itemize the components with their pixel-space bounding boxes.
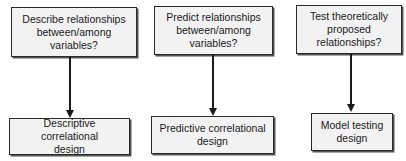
question-box-predict: Predict relationships between/among vari… (154, 6, 273, 55)
design-text: Descriptive correlational design (14, 117, 125, 156)
arrow-down-icon (347, 104, 355, 112)
question-text: Test theoretically proposed relationship… (310, 10, 388, 49)
question-text: Describe relationships between/among var… (22, 13, 125, 52)
connector-line (212, 55, 214, 110)
connector-line (69, 57, 71, 112)
design-box-model-testing: Model testing design (311, 113, 393, 151)
question-box-test: Test theoretically proposed relationship… (296, 5, 402, 54)
question-text: Predict relationships between/among vari… (166, 11, 261, 50)
arrow-down-icon (209, 108, 217, 116)
connector-line (350, 54, 352, 106)
design-box-predictive: Predictive correlational design (151, 116, 274, 154)
design-box-descriptive: Descriptive correlational design (9, 118, 130, 155)
design-text: Model testing design (321, 119, 383, 145)
question-box-describe: Describe relationships between/among var… (11, 7, 137, 57)
design-text: Predictive correlational design (159, 122, 265, 148)
